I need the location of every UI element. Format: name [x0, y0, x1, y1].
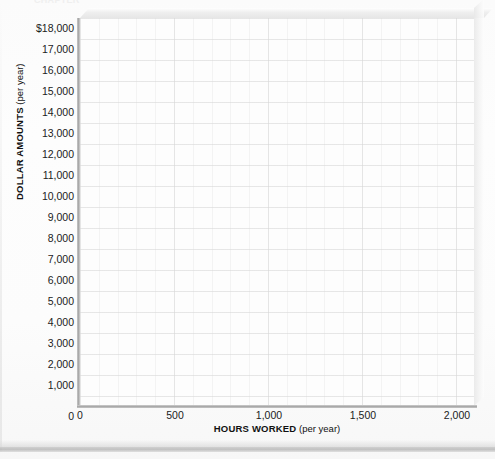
y-tick-label: 16,000 — [0, 65, 74, 76]
plot-area — [80, 18, 474, 406]
major-gridlines — [80, 18, 474, 406]
minor-gridlines — [80, 18, 474, 406]
y-tick-label: 17,000 — [0, 44, 74, 55]
y-tick-label: 11,000 — [0, 170, 74, 181]
y-tick-label: 0 — [0, 411, 74, 422]
x-tick-label: 1,500 — [350, 410, 376, 421]
y-axis-line — [77, 18, 80, 408]
figure-page: CHAPTER $18,00017,00016,00015,00014,0001… — [0, 0, 495, 459]
y-tick-label: 1,000 — [0, 380, 74, 391]
y-tick-label: 10,000 — [0, 191, 74, 202]
y-axis-title-light: (per year) — [14, 63, 25, 104]
y-tick-label: $18,000 — [0, 23, 74, 34]
y-tick-label: 12,000 — [0, 149, 74, 160]
y-tick-label: 5,000 — [0, 296, 74, 307]
y-tick-label: 8,000 — [0, 233, 74, 244]
y-tick-label: 7,000 — [0, 254, 74, 265]
x-tick-label: 500 — [166, 410, 184, 421]
plot-bevel-right — [474, 0, 484, 406]
y-tick-label: 15,000 — [0, 86, 74, 97]
x-axis-title-light: (per year) — [299, 423, 340, 434]
y-tick-label: 14,000 — [0, 107, 74, 118]
y-tick-label: 6,000 — [0, 275, 74, 286]
x-tick-label: 1,000 — [256, 410, 282, 421]
y-tick-label: 2,000 — [0, 359, 74, 370]
y-tick-label: 3,000 — [0, 338, 74, 349]
y-axis-title-strong: DOLLAR AMOUNTS — [14, 107, 25, 200]
plot-bevel-top — [80, 8, 493, 18]
x-axis-title-strong: HOURS WORKED — [214, 423, 297, 434]
x-axis-line — [77, 405, 477, 408]
y-axis-title: DOLLAR AMOUNTS (per year) — [14, 186, 25, 200]
y-axis-tick-labels: $18,00017,00016,00015,00014,00013,00012,… — [0, 0, 74, 459]
y-tick-label: 4,000 — [0, 317, 74, 328]
x-tick-label: 0 — [77, 410, 83, 421]
y-tick-label: 9,000 — [0, 212, 74, 223]
page-bottom-shadow — [0, 447, 495, 452]
x-axis-title: HOURS WORKED (per year) — [214, 423, 340, 434]
x-tick-label: 2,000 — [444, 410, 470, 421]
y-tick-label: 13,000 — [0, 128, 74, 139]
